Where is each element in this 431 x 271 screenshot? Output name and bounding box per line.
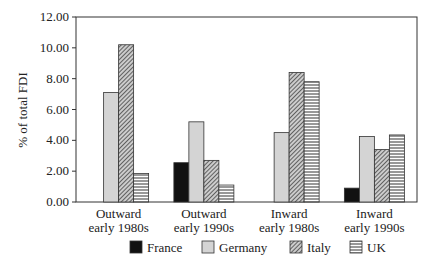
x-tick-label: Outward	[181, 206, 227, 221]
x-tick-label: early 1980s	[88, 220, 148, 235]
bar-france	[174, 163, 189, 202]
bar-italy	[374, 150, 389, 202]
bar-uk	[389, 135, 404, 202]
legend-swatch-uk	[350, 241, 362, 253]
bar-uk	[219, 185, 234, 202]
y-tick-label: 2.00	[46, 163, 69, 178]
y-tick-label: 4.00	[46, 132, 69, 147]
bars	[104, 45, 405, 202]
y-axis-label: % of total FDI	[15, 72, 30, 147]
bar-germany	[189, 122, 204, 202]
x-tick-label: early 1990s	[174, 220, 234, 235]
bar-uk	[304, 82, 319, 202]
legend-swatch-france	[130, 241, 142, 253]
y-tick-label: 10.00	[40, 40, 69, 55]
legend-swatch-germany	[202, 241, 214, 253]
bar-italy	[204, 160, 219, 202]
y-tick-label: 12.00	[40, 9, 69, 24]
x-tick-label: early 1990s	[344, 220, 404, 235]
legend-swatch-italy	[290, 241, 302, 253]
legend-label: UK	[367, 240, 386, 255]
x-tick-label: Outward	[96, 206, 142, 221]
bar-france	[344, 188, 359, 202]
legend-label: Germany	[219, 240, 268, 255]
x-tick-label: Inward	[356, 206, 393, 221]
fdi-bar-chart: 0.002.004.006.008.0010.0012.00Outwardear…	[0, 0, 431, 271]
bar-germany	[104, 93, 119, 202]
legend: FranceGermanyItalyUK	[130, 240, 386, 255]
bar-germany	[274, 133, 289, 202]
x-tick-label: early 1980s	[259, 220, 319, 235]
x-tick-label: Inward	[271, 206, 308, 221]
bar-germany	[359, 136, 374, 202]
bar-uk	[134, 173, 149, 202]
legend-label: Italy	[307, 240, 331, 255]
y-tick-label: 0.00	[46, 194, 69, 209]
y-tick-label: 8.00	[46, 71, 69, 86]
bar-italy	[119, 45, 134, 202]
bar-italy	[289, 73, 304, 203]
y-tick-label: 6.00	[46, 102, 69, 117]
legend-label: France	[147, 240, 183, 255]
